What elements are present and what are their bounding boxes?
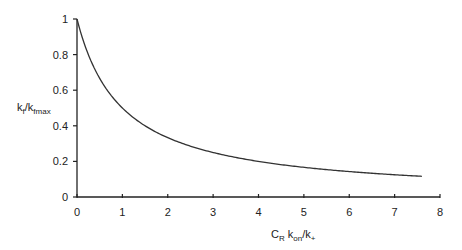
- y-tick-label: 0: [62, 191, 68, 203]
- data-line: [77, 19, 422, 176]
- y-tick-label: 1: [62, 13, 68, 25]
- y-tick-label: 0.8: [53, 49, 68, 61]
- axes: [77, 19, 440, 197]
- x-tick-label: 7: [392, 206, 398, 218]
- x-tick-label: 3: [210, 206, 216, 218]
- x-tick-label: 0: [74, 206, 80, 218]
- y-ticks: 00.20.40.60.81: [53, 13, 77, 203]
- y-tick-label: 0.4: [53, 120, 68, 132]
- x-axis-label: CR kon/k+: [271, 228, 315, 243]
- x-tick-label: 5: [301, 206, 307, 218]
- ylabel-slash-k: /k: [25, 101, 34, 113]
- y-tick-label: 0.6: [53, 84, 68, 96]
- xlabel-k: k: [285, 228, 294, 240]
- x-tick-label: 2: [165, 206, 171, 218]
- ylabel-sub-fmax: fmax: [33, 107, 50, 116]
- xlabel-sub-on: on: [293, 234, 302, 243]
- xlabel-c: C: [271, 228, 279, 240]
- x-tick-label: 8: [437, 206, 443, 218]
- xlabel-sub-plus: +: [311, 234, 316, 243]
- x-tick-label: 4: [255, 206, 261, 218]
- y-axis-label: kf/kfmax: [17, 101, 51, 116]
- x-tick-label: 1: [119, 206, 125, 218]
- y-tick-label: 0.2: [53, 155, 68, 167]
- chart-plot-area: 00.20.40.60.81 012345678: [0, 0, 462, 250]
- x-tick-label: 6: [346, 206, 352, 218]
- xlabel-slash-k: /k: [302, 228, 311, 240]
